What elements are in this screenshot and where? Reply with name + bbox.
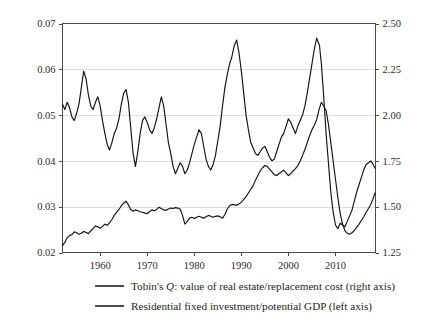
legend-label: Tobin's Q: value of real estate/replacem…: [131, 280, 395, 293]
x-axis-tick-label: 1980: [184, 260, 205, 271]
right-axis-tick-label: 1.75: [383, 156, 401, 167]
left-axis-tick-label: 0.07: [37, 18, 55, 29]
x-axis-tick-label: 1960: [90, 260, 111, 271]
left-axis-tick-label: 0.06: [37, 64, 55, 75]
x-axis-tick-label: 2010: [325, 260, 346, 271]
x-axis-tick-label: 2000: [278, 260, 299, 271]
right-axis-tick-label: 1.25: [383, 247, 401, 258]
x-axis-tick-label: 1970: [137, 260, 158, 271]
left-axis-tick-label: 0.03: [37, 201, 55, 212]
right-axis-tick-label: 2.50: [383, 18, 401, 29]
left-axis-tick-label: 0.02: [37, 247, 55, 258]
right-axis-tick-label: 2.25: [383, 64, 401, 75]
x-axis-tick-label: 1990: [231, 260, 252, 271]
right-axis-tick-label: 1.50: [383, 201, 401, 212]
legend-label: Residential fixed investment/potential G…: [131, 300, 372, 313]
left-axis-tick-label: 0.04: [37, 156, 56, 167]
chart-figure: 0.020.030.040.050.060.07 1.251.501.752.0…: [0, 0, 429, 331]
chart-svg: 0.020.030.040.050.060.07 1.251.501.752.0…: [0, 0, 429, 331]
right-axis-tick-label: 2.00: [383, 110, 401, 121]
left-axis-tick-label: 0.05: [37, 110, 55, 121]
